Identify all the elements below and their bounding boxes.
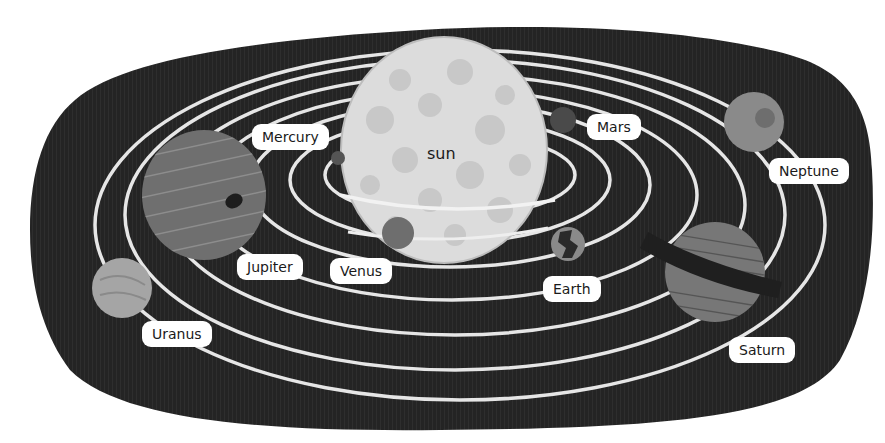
solar-system-illustration: [0, 0, 885, 443]
neptune-planet: [724, 92, 784, 152]
earth-label: Earth: [543, 276, 601, 302]
solar-system-diagram: sun Mercury Venus Earth Mars Jupiter Sat…: [0, 0, 885, 443]
venus-label: Venus: [330, 258, 392, 284]
uranus-planet: [92, 258, 152, 318]
earth-planet: [551, 227, 585, 261]
mercury-label: Mercury: [252, 124, 329, 150]
jupiter-label: Jupiter: [237, 254, 303, 280]
venus-planet: [382, 217, 414, 249]
uranus-label: Uranus: [142, 321, 212, 347]
sun-label: sun: [427, 144, 456, 163]
neptune-label: Neptune: [769, 158, 849, 184]
mercury-planet: [331, 151, 345, 165]
mars-label: Mars: [587, 114, 641, 140]
mars-planet: [550, 107, 576, 133]
saturn-label: Saturn: [729, 337, 795, 363]
